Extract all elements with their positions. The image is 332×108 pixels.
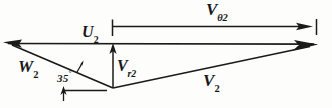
vector-u2 [3, 39, 314, 47]
label-vtheta2-base: V [206, 0, 218, 19]
label-vtheta2: Vθ2 [206, 1, 228, 22]
label-u2-base: U [82, 23, 94, 40]
velocity-triangle-figure: Vθ2 U2 W2 Vr2 V2 35° [0, 0, 332, 108]
label-v2: V2 [203, 72, 220, 93]
vector-diagram-canvas [0, 0, 332, 108]
label-w2-base: W [18, 57, 33, 76]
vector-vr2 [109, 43, 116, 88]
label-w2-subscript: 2 [33, 69, 38, 80]
label-vr2-subscript: r2 [127, 68, 136, 79]
tangential-reference-line [60, 86, 107, 101]
label-w2: W2 [18, 58, 39, 79]
label-vtheta2-subscript: θ2 [217, 12, 228, 23]
u2-left-arrowhead [3, 39, 22, 47]
label-blade-angle: 35° [57, 71, 72, 84]
label-blade-angle-value: 35 [57, 72, 68, 84]
label-u2: U2 [82, 24, 99, 43]
label-u2-subscript: 2 [94, 34, 99, 45]
angle-marker-35 [77, 61, 84, 73]
label-vr2: Vr2 [117, 58, 137, 77]
label-v2-base: V [203, 71, 215, 90]
u2-shaft [8, 44, 314, 45]
label-v2-subscript: 2 [215, 83, 220, 94]
label-blade-angle-unit: ° [68, 69, 71, 78]
